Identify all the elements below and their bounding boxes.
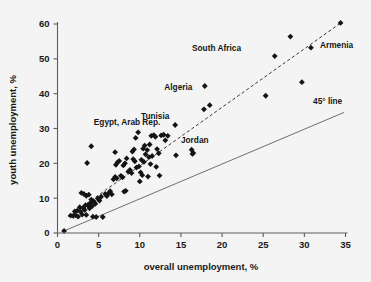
data-point-marker — [172, 122, 178, 128]
data-point-marker — [112, 149, 118, 155]
x-tick-label: 10 — [134, 239, 145, 250]
x-tick-label: 0 — [55, 239, 60, 250]
data-point-marker — [287, 34, 293, 40]
x-tick-label: 25 — [258, 239, 269, 250]
data-point-marker — [263, 93, 269, 99]
data-point-marker — [173, 152, 179, 158]
annotations: South AfricaArmeniaAlgeriaTunisiaEgypt, … — [94, 40, 354, 145]
y-tick-label: 40 — [39, 88, 50, 99]
data-point-marker — [145, 174, 151, 180]
y-tick-label: 60 — [39, 18, 50, 29]
data-point-marker — [148, 161, 154, 167]
x-axis-title: overall unemployment, % — [144, 261, 259, 272]
data-point-marker — [135, 129, 141, 135]
x-tick-label: 15 — [176, 239, 187, 250]
data-point-marker — [93, 214, 99, 220]
annotation-label: Jordan — [181, 135, 209, 145]
x-tick-label: 35 — [340, 239, 351, 250]
x-tick-label: 30 — [299, 239, 310, 250]
annotation-label: Egypt, Arab Rep. — [94, 117, 161, 127]
data-point-marker — [207, 102, 213, 108]
data-point-marker — [162, 137, 168, 143]
data-point-marker — [157, 173, 163, 179]
data-point-marker — [202, 83, 208, 89]
y-tick-label: 50 — [39, 53, 50, 64]
x-tick-label: 5 — [96, 239, 102, 250]
annotation-label: Algeria — [164, 82, 193, 92]
annotation-label: 45° line — [313, 96, 343, 106]
data-point-marker — [133, 135, 139, 141]
y-tick-label: 10 — [39, 193, 50, 204]
data-point-marker — [124, 156, 130, 162]
data-point-marker — [165, 133, 171, 139]
data-point-marker — [88, 143, 94, 149]
scatter-plot: 051015202530350102030405060 South Africa… — [0, 0, 371, 282]
y-axis-title: youth unemployment, % — [7, 75, 18, 185]
y-tick-label: 30 — [39, 123, 50, 134]
data-point-marker — [201, 106, 207, 112]
data-point-marker — [299, 79, 305, 85]
annotation-label: Armenia — [320, 40, 354, 50]
data-point-marker — [153, 164, 159, 170]
y-tick-label: 0 — [44, 227, 49, 238]
data-point-marker — [308, 45, 314, 51]
45-degree-line — [64, 112, 344, 230]
y-tick-label: 20 — [39, 158, 50, 169]
x-tick-label: 20 — [217, 239, 228, 250]
data-point-marker — [137, 179, 143, 185]
chart-figure: 051015202530350102030405060 South Africa… — [0, 0, 371, 282]
data-point-marker — [83, 212, 89, 218]
data-point-marker — [84, 160, 90, 166]
data-point-marker — [272, 53, 278, 59]
annotation-label: South Africa — [192, 43, 241, 53]
data-point-marker — [147, 142, 153, 148]
